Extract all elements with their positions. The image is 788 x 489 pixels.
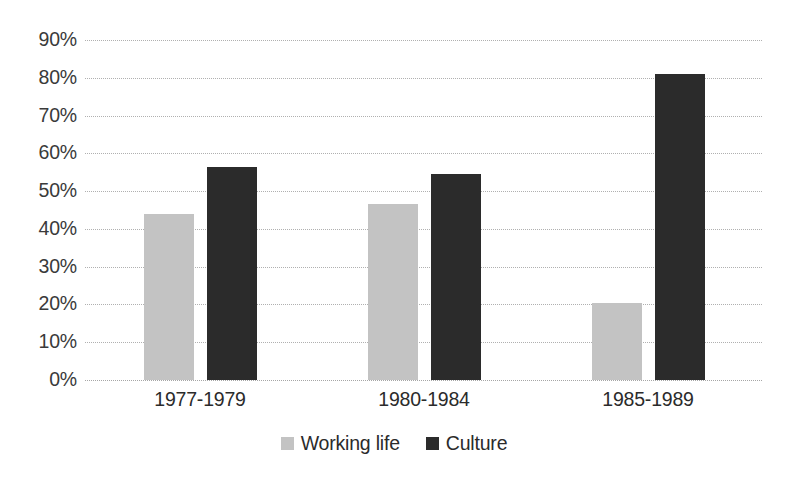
y-tick-label: 60%	[0, 144, 77, 164]
legend-swatch-culture	[426, 437, 439, 450]
x-tick-label: 1985-1989	[602, 389, 693, 410]
legend-label: Culture	[446, 434, 507, 454]
bar-working-life-1980-1984	[368, 204, 418, 380]
bar-culture-1985-1989	[655, 74, 705, 380]
bar-working-life-1977-1979	[144, 214, 194, 380]
bars-layer	[85, 40, 762, 380]
legend-entry-culture[interactable]: Culture	[426, 434, 507, 454]
bar-chart: 0%10%20%30%40%50%60%70%80%90% 1977-19791…	[0, 0, 788, 489]
x-tick-label: 1980-1984	[378, 389, 469, 410]
x-tick-label: 1977-1979	[154, 389, 245, 410]
y-tick-label: 0%	[0, 370, 77, 390]
y-tick-label: 20%	[0, 295, 77, 315]
y-tick-label: 30%	[0, 257, 77, 277]
chart-legend: Working lifeCulture	[0, 434, 788, 454]
y-tick-label: 10%	[0, 332, 77, 352]
y-axis: 0%10%20%30%40%50%60%70%80%90%	[0, 40, 77, 380]
x-axis: 1977-19791980-19841985-1989	[85, 389, 762, 419]
legend-label: Working life	[301, 434, 400, 454]
legend-entry-working-life[interactable]: Working life	[281, 434, 400, 454]
legend-swatch-working-life	[281, 437, 294, 450]
axis-baseline	[85, 380, 762, 381]
bar-culture-1980-1984	[431, 174, 481, 380]
bar-working-life-1985-1989	[592, 303, 642, 380]
bar-culture-1977-1979	[207, 167, 257, 380]
y-tick-label: 90%	[0, 30, 77, 50]
y-tick-label: 40%	[0, 219, 77, 239]
y-tick-label: 50%	[0, 181, 77, 201]
y-tick-label: 70%	[0, 106, 77, 126]
y-tick-label: 80%	[0, 68, 77, 88]
